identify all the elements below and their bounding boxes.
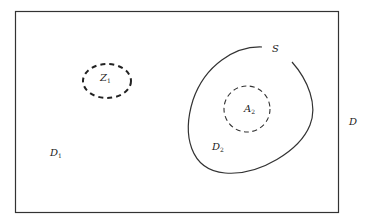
label-d2: D2	[212, 142, 224, 153]
label-d1-base: D	[50, 147, 58, 158]
label-s: S	[272, 44, 279, 54]
label-d2-sub: 2	[220, 146, 224, 153]
label-d2-base: D	[212, 141, 220, 152]
label-a2-sub: 2	[251, 108, 255, 115]
label-a2: A2	[244, 104, 255, 115]
label-d-text: D	[349, 116, 357, 127]
label-s-text: S	[272, 43, 279, 54]
label-d1: D1	[50, 148, 62, 159]
label-z1: Z1	[100, 73, 111, 84]
diagram-canvas: Z1 S A2 D2 D1 D	[0, 0, 365, 223]
label-z1-base: Z	[100, 72, 107, 83]
label-d1-sub: 1	[58, 152, 62, 159]
label-d: D	[349, 117, 357, 127]
outer-rectangle-d	[16, 12, 339, 213]
diagram-graphic	[0, 0, 365, 223]
label-z1-sub: 1	[107, 77, 111, 84]
